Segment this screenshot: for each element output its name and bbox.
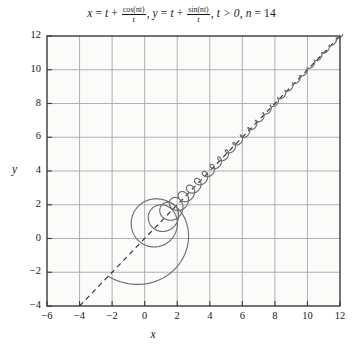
x-tick-label: 6 xyxy=(227,310,257,321)
y-tick-label: −2 xyxy=(8,265,41,276)
x-tick-label: −4 xyxy=(65,310,95,321)
plot-canvas xyxy=(0,0,363,348)
x-tick-label: 10 xyxy=(292,310,322,321)
y-tick-label: 8 xyxy=(8,97,41,108)
y-tick-label: 2 xyxy=(8,198,41,209)
y-tick-label: 6 xyxy=(8,130,41,141)
x-axis-label: x xyxy=(150,328,155,340)
y-tick-label: 10 xyxy=(8,63,41,74)
y-tick-label: 0 xyxy=(8,232,41,243)
x-tick-label: 4 xyxy=(195,310,225,321)
figure-container: x = t + cos(nt)t, y = t + sin(nt)t, t > … xyxy=(0,0,363,348)
y-tick-label: −4 xyxy=(8,299,41,310)
x-tick-label: 8 xyxy=(260,310,290,321)
x-tick-label: −6 xyxy=(32,310,62,321)
x-tick-label: −2 xyxy=(97,310,127,321)
y-axis-label: y xyxy=(12,163,17,175)
x-tick-label: 2 xyxy=(162,310,192,321)
x-tick-label: 0 xyxy=(130,310,160,321)
x-tick-label: 12 xyxy=(325,310,355,321)
y-tick-label: 12 xyxy=(8,29,41,40)
